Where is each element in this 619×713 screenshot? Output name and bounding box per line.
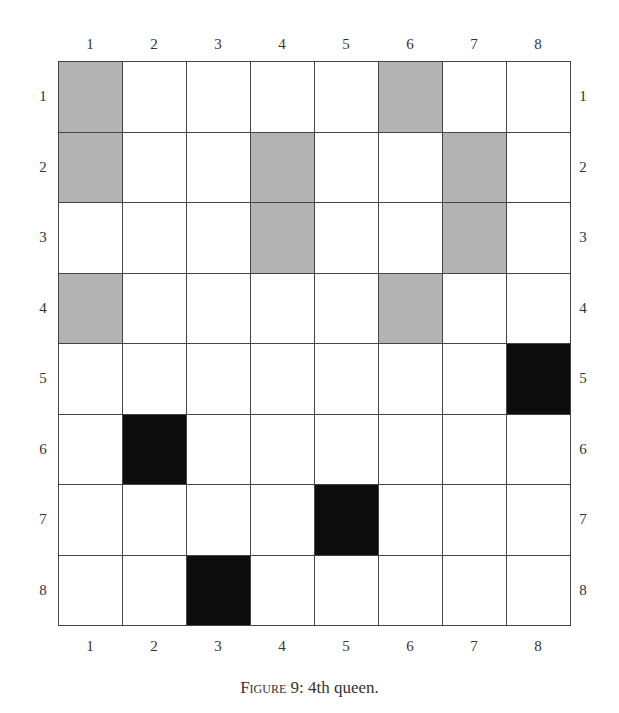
board-cell	[442, 414, 506, 485]
board-cell	[506, 132, 570, 203]
attacked-cell	[378, 273, 442, 344]
board-cell	[250, 414, 314, 485]
row-label: 8	[573, 581, 593, 599]
board-cell	[186, 132, 250, 203]
row-label: 1	[573, 87, 593, 105]
board-cell	[378, 484, 442, 555]
board-cell	[250, 343, 314, 414]
row-label: 7	[573, 510, 593, 528]
row-label: 2	[33, 158, 53, 176]
board-cell	[378, 343, 442, 414]
board-cell	[186, 202, 250, 273]
board-cell	[250, 61, 314, 132]
column-label: 4	[272, 637, 292, 655]
column-label: 2	[144, 637, 164, 655]
board-cell	[378, 202, 442, 273]
board-cell	[314, 61, 378, 132]
attacked-cell	[250, 132, 314, 203]
queen-cell	[506, 343, 570, 414]
board-cell	[506, 202, 570, 273]
board-cell	[186, 61, 250, 132]
board-cell	[58, 484, 122, 555]
column-label: 5	[336, 35, 356, 53]
column-label: 5	[336, 637, 356, 655]
board-cell	[314, 132, 378, 203]
attacked-cell	[58, 132, 122, 203]
board-cell	[186, 414, 250, 485]
board-cell	[186, 343, 250, 414]
board-cell	[442, 273, 506, 344]
attacked-cell	[442, 202, 506, 273]
board-cell	[378, 555, 442, 626]
column-label: 6	[400, 637, 420, 655]
caption-label: Figure 9	[240, 678, 299, 697]
board-cell	[58, 202, 122, 273]
board-cell	[506, 414, 570, 485]
board-cell	[58, 343, 122, 414]
queens-board-figure: 12345678 12345678 12345678 12345678 Figu…	[0, 0, 619, 713]
row-label: 3	[573, 228, 593, 246]
column-label: 6	[400, 35, 420, 53]
board-cell	[186, 273, 250, 344]
board-cell	[250, 273, 314, 344]
board-cell	[122, 343, 186, 414]
row-label: 2	[573, 158, 593, 176]
column-label: 8	[528, 637, 548, 655]
board-cell	[314, 555, 378, 626]
board-cell	[122, 202, 186, 273]
column-label: 3	[208, 35, 228, 53]
queen-cell	[122, 414, 186, 485]
board-cell	[122, 555, 186, 626]
board-cell	[442, 61, 506, 132]
figure-caption: Figure 9: 4th queen.	[0, 678, 619, 698]
row-label: 4	[33, 299, 53, 317]
row-label: 1	[33, 87, 53, 105]
board-cell	[122, 132, 186, 203]
column-label: 1	[80, 637, 100, 655]
board-cell	[314, 273, 378, 344]
board-cell	[58, 414, 122, 485]
board-cell	[506, 273, 570, 344]
board-cell	[506, 555, 570, 626]
column-label: 8	[528, 35, 548, 53]
attacked-cell	[378, 61, 442, 132]
column-label: 7	[464, 637, 484, 655]
board-cell	[442, 343, 506, 414]
board-cell	[314, 202, 378, 273]
board-cell	[378, 414, 442, 485]
column-label: 7	[464, 35, 484, 53]
row-label: 4	[573, 299, 593, 317]
board-cell	[314, 343, 378, 414]
attacked-cell	[58, 273, 122, 344]
caption-text: : 4th queen.	[299, 678, 379, 697]
board-cell	[186, 484, 250, 555]
row-label: 6	[573, 440, 593, 458]
row-label: 5	[33, 369, 53, 387]
attacked-cell	[250, 202, 314, 273]
board-cell	[122, 61, 186, 132]
board-cell	[122, 484, 186, 555]
column-label: 3	[208, 637, 228, 655]
attacked-cell	[58, 61, 122, 132]
column-label: 1	[80, 35, 100, 53]
board-cell	[506, 484, 570, 555]
board-cell	[442, 484, 506, 555]
column-label: 4	[272, 35, 292, 53]
row-label: 6	[33, 440, 53, 458]
chess-board-grid	[58, 61, 571, 626]
board-cell	[442, 555, 506, 626]
row-label: 7	[33, 510, 53, 528]
row-label: 8	[33, 581, 53, 599]
board-cell	[378, 132, 442, 203]
board-cell	[250, 555, 314, 626]
attacked-cell	[442, 132, 506, 203]
row-label: 3	[33, 228, 53, 246]
column-label: 2	[144, 35, 164, 53]
board-cell	[250, 484, 314, 555]
queen-cell	[314, 484, 378, 555]
board-cell	[58, 555, 122, 626]
board-cell	[122, 273, 186, 344]
queen-cell	[186, 555, 250, 626]
row-label: 5	[573, 369, 593, 387]
board-cell	[314, 414, 378, 485]
